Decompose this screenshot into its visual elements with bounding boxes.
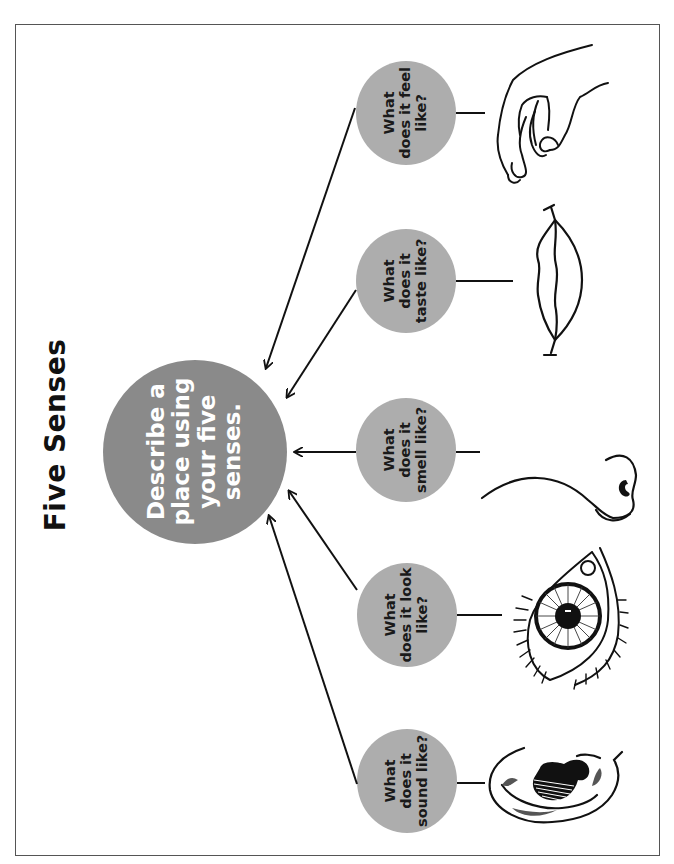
- sense-question-taste: What does it taste like?: [382, 231, 430, 331]
- sense-question-smell: What does it smell like?: [382, 400, 430, 500]
- sense-circle-taste: What does it taste like?: [356, 229, 456, 333]
- sense-circle-feel: What does it feel like?: [356, 61, 456, 165]
- lips-icon: [530, 195, 610, 365]
- sense-question-look: What does it look like?: [383, 565, 431, 665]
- nose-icon: [478, 440, 648, 530]
- sense-circle-look: What does it look like?: [357, 563, 457, 667]
- sense-question-sound: What does it sound like?: [383, 731, 431, 831]
- hand-icon: [480, 35, 650, 205]
- sense-question-feel: What does it feel like?: [382, 63, 430, 163]
- sense-circle-sound: What does it sound like?: [357, 729, 457, 833]
- central-prompt-circle: Describe a place using your five senses.: [103, 360, 287, 544]
- ear-icon: [482, 740, 642, 840]
- central-prompt-text: Describe a place using your five senses.: [144, 362, 245, 542]
- sense-circle-smell: What does it smell like?: [356, 398, 456, 502]
- eye-icon: [510, 540, 640, 695]
- page-title: Five Senses: [39, 339, 72, 532]
